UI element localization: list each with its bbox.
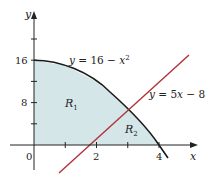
y-axis-arrow-icon [31, 11, 37, 19]
parabola-label: y = 16 − x2 [68, 54, 130, 66]
tick-label-8: 8 [21, 97, 27, 108]
shaded-region [34, 60, 159, 145]
tick-label-2: 2 [93, 151, 99, 162]
tick-label-4: 4 [156, 151, 162, 162]
y-axis-label: y [24, 8, 32, 21]
chart: 0 2 4 8 16 x y y = 16 − x2 y = 5x − 8 R1… [0, 0, 206, 174]
x-axis-arrow-icon [190, 142, 198, 148]
tick-label-0: 0 [26, 151, 32, 162]
tick-label-16: 16 [15, 55, 28, 66]
line-label: y = 5x − 8 [148, 88, 205, 100]
x-axis-label: x [190, 150, 197, 163]
